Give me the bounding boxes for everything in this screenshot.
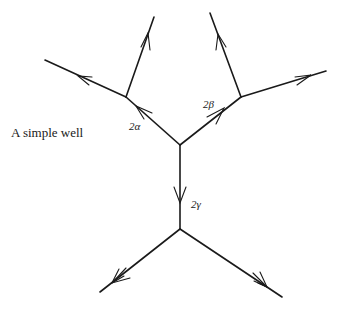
edge-left-far	[45, 60, 126, 97]
caption: A simple well	[11, 125, 83, 141]
edge-left-top	[126, 17, 154, 97]
edge-right-far	[241, 71, 326, 97]
edge-right-top	[210, 13, 241, 97]
arrowheads	[78, 33, 311, 287]
label-beta: 2β	[203, 98, 215, 110]
edges	[45, 13, 326, 297]
label-alpha: 2α	[129, 120, 141, 132]
label-gamma: 2γ	[191, 198, 202, 210]
well-diagram: 2α 2β 2γ	[0, 0, 338, 309]
